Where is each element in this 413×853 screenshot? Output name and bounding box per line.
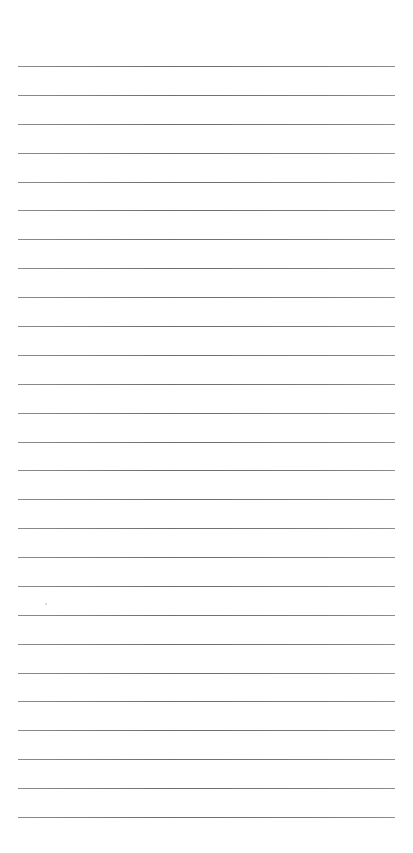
ruled-line (18, 384, 395, 385)
ruled-line (18, 615, 395, 616)
ruled-line (18, 124, 395, 125)
ruled-line (18, 95, 395, 96)
ruled-line (18, 355, 395, 356)
ruled-line (18, 730, 395, 731)
ruled-line (18, 644, 395, 645)
ruled-line (18, 182, 395, 183)
ruled-line (18, 586, 395, 587)
ruled-line (18, 239, 395, 240)
ruled-line (18, 297, 395, 298)
ruled-line (18, 442, 395, 443)
ruled-line (18, 326, 395, 327)
ruled-line (18, 66, 395, 67)
ruled-line (18, 759, 395, 760)
ruled-line (18, 673, 395, 674)
ruled-line (18, 268, 395, 269)
ruled-line (18, 817, 395, 818)
ruled-line (18, 470, 395, 471)
ruled-line (18, 788, 395, 789)
ruled-line (18, 210, 395, 211)
ruled-line (18, 557, 395, 558)
paper-speck (45, 603, 47, 605)
ruled-line (18, 153, 395, 154)
ruled-lines (18, 0, 395, 853)
ruled-line (18, 499, 395, 500)
ruled-line (18, 701, 395, 702)
ruled-line (18, 528, 395, 529)
ruled-line (18, 413, 395, 414)
